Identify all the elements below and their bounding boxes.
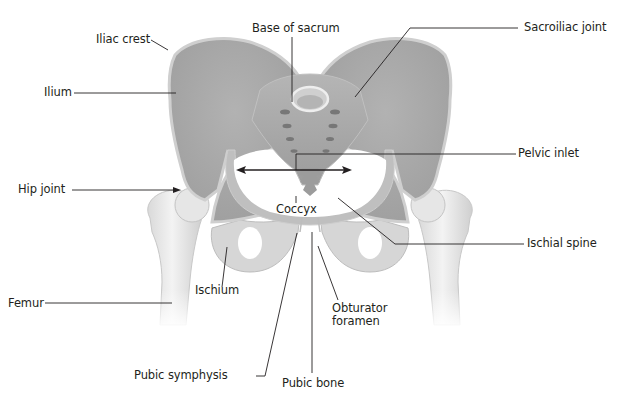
label-base-of-sacrum: Base of sacrum <box>252 22 340 35</box>
right-obturator-foramen-hole <box>358 227 382 259</box>
label-ischial-spine: Ischial spine <box>527 237 597 250</box>
label-ilium: Ilium <box>44 86 72 99</box>
label-femur: Femur <box>8 297 44 310</box>
label-pubic-bone: Pubic bone <box>282 377 344 390</box>
left-obturator-foramen-hole <box>238 227 262 259</box>
label-pubic-symphysis: Pubic symphysis <box>134 369 228 382</box>
pelvis-diagram: Iliac crest Base of sacrum Sacroiliac jo… <box>0 0 620 407</box>
label-sacroiliac-joint: Sacroiliac joint <box>524 21 606 34</box>
label-pelvic-inlet: Pelvic inlet <box>518 147 579 160</box>
left-femur <box>148 188 209 330</box>
right-femur <box>411 188 472 330</box>
label-coccyx: Coccyx <box>276 203 317 216</box>
label-ischium: Ischium <box>195 284 239 297</box>
label-hip-joint: Hip joint <box>18 183 65 196</box>
label-obturator-foramen: Obturator foramen <box>332 302 387 328</box>
label-obturator-line2: foramen <box>332 315 387 328</box>
label-iliac-crest: Iliac crest <box>96 33 150 46</box>
